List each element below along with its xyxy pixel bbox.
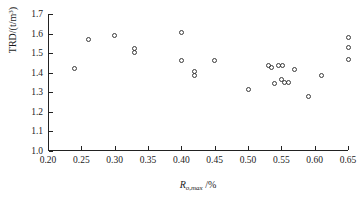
data-point (86, 37, 91, 42)
x-axis-tick (181, 146, 182, 150)
y-axis-title: TRD/(t/m3) (6, 0, 18, 76)
data-point (346, 45, 351, 50)
x-axis-tick (115, 146, 116, 150)
data-point (269, 65, 274, 70)
data-point (179, 30, 184, 35)
x-axis-tick (348, 146, 349, 150)
y-axis-title-close: ) (7, 7, 18, 10)
x-axis-title-unit: /% (203, 179, 217, 190)
x-axis-tick (248, 146, 249, 150)
x-axis-tick (48, 146, 49, 150)
data-point (132, 50, 137, 55)
y-axis-title-exponent: 3 (7, 10, 15, 14)
x-axis-tick (81, 146, 82, 150)
data-point (212, 58, 217, 63)
y-axis-tick-label: 1.3 (17, 87, 43, 97)
y-axis-tick (49, 131, 53, 132)
y-axis-tick-label: 1.6 (17, 29, 43, 39)
y-axis-title-main: TRD/(t/m (7, 14, 18, 53)
x-axis-tick-label: 0.65 (328, 155, 361, 165)
data-point (192, 73, 197, 78)
data-point (272, 81, 277, 86)
x-axis-tick (148, 146, 149, 150)
x-axis-title: Ro,max /% (48, 179, 348, 194)
x-axis-tick (315, 146, 316, 150)
data-point (280, 63, 285, 68)
data-point (72, 66, 77, 71)
y-axis-tick (49, 92, 53, 93)
data-point (246, 87, 251, 92)
data-point (306, 94, 311, 99)
y-axis-tick-label: 1.4 (17, 68, 43, 78)
x-axis-tick (281, 146, 282, 150)
y-axis-tick (49, 53, 53, 54)
data-point (319, 73, 324, 78)
data-point (179, 58, 184, 63)
y-axis-tick (49, 14, 53, 15)
y-axis-tick (49, 151, 53, 152)
x-axis-tick (215, 146, 216, 150)
y-axis-tick-label: 1.7 (17, 9, 43, 19)
y-axis-tick-label: 1.1 (17, 126, 43, 136)
y-axis-tick-label: 1.5 (17, 48, 43, 58)
data-point (292, 67, 297, 72)
y-axis-tick (49, 73, 53, 74)
y-axis-tick (49, 34, 53, 35)
x-axis-title-subscript: o,max (186, 184, 203, 192)
scatter-chart-figure: 1.01.11.21.31.41.51.61.7 0.200.250.300.3… (0, 0, 361, 209)
plot-area (48, 14, 348, 151)
data-point (286, 80, 291, 85)
data-point (346, 35, 351, 40)
data-point (112, 33, 117, 38)
y-axis-tick-label: 1.2 (17, 107, 43, 117)
y-axis-tick (49, 112, 53, 113)
data-point (346, 57, 351, 62)
